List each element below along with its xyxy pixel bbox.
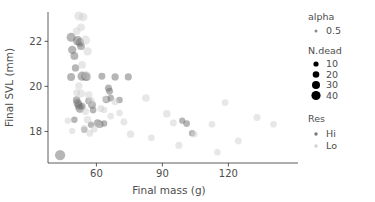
legend: alpha0.5N.dead10203040ResHiLo xyxy=(308,11,342,151)
legend-ndead-40-label: 40 xyxy=(326,90,338,101)
x-tick-label: 90 xyxy=(156,168,169,179)
data-point xyxy=(127,130,134,137)
data-point xyxy=(95,121,101,127)
data-point xyxy=(79,13,87,21)
data-point xyxy=(91,126,98,133)
data-point xyxy=(55,150,65,160)
legend-ndead-30-label: 30 xyxy=(326,79,338,90)
chart-container: 6090120182022Final mass (g)Final SVL (mm… xyxy=(0,0,375,202)
legend-ndead-40-marker xyxy=(311,91,320,100)
data-point xyxy=(235,138,242,145)
data-point xyxy=(209,121,216,128)
data-point xyxy=(72,64,79,71)
y-tick-label: 22 xyxy=(29,36,42,47)
data-point xyxy=(73,89,80,96)
data-point xyxy=(106,88,113,95)
data-point xyxy=(87,97,95,105)
x-axis-title: Final mass (g) xyxy=(132,184,205,196)
data-point xyxy=(170,119,177,126)
legend-res-lo-label: Lo xyxy=(326,140,337,151)
data-point xyxy=(112,98,119,105)
y-tick-label: 18 xyxy=(29,126,42,137)
legend-ndead-20-marker xyxy=(313,71,320,78)
y-tick-label: 20 xyxy=(29,81,42,92)
data-point xyxy=(179,118,185,124)
y-axis-title: Final SVL (mm) xyxy=(3,48,15,127)
data-point xyxy=(107,113,114,120)
data-point xyxy=(101,107,107,113)
axis-lines xyxy=(48,12,298,163)
legend-ndead-20-label: 20 xyxy=(326,69,338,80)
legend-ndead-10-marker xyxy=(313,61,318,66)
data-point xyxy=(73,27,81,35)
data-point xyxy=(78,61,86,69)
data-point xyxy=(142,94,150,102)
data-point xyxy=(120,119,127,126)
data-point xyxy=(148,134,155,141)
data-point xyxy=(69,128,75,134)
data-point xyxy=(163,110,171,118)
data-point xyxy=(84,47,92,55)
legend-res-hi-marker xyxy=(314,132,317,135)
data-point xyxy=(125,73,132,80)
data-point xyxy=(65,117,71,123)
legend-title-alpha: alpha xyxy=(308,11,334,22)
legend-alpha-0_5-label: 0.5 xyxy=(326,25,341,36)
data-point xyxy=(81,125,88,132)
scatter-plot: 6090120182022Final mass (g)Final SVL (mm… xyxy=(0,0,375,202)
legend-res-hi-label: Hi xyxy=(326,128,336,139)
data-point xyxy=(90,107,97,114)
data-point xyxy=(270,121,277,128)
data-point xyxy=(70,52,78,60)
data-point xyxy=(116,110,122,116)
data-point xyxy=(101,120,107,126)
legend-res-lo-marker xyxy=(314,144,317,147)
data-point xyxy=(191,131,197,137)
data-point xyxy=(102,96,108,102)
legend-alpha-0_5-marker xyxy=(315,30,318,33)
data-point xyxy=(75,82,82,89)
x-tick-label: 120 xyxy=(219,168,238,179)
data-point xyxy=(214,149,220,155)
data-point xyxy=(111,73,118,80)
data-points xyxy=(55,12,277,161)
data-point xyxy=(82,71,91,80)
data-point xyxy=(84,116,92,124)
data-point xyxy=(67,73,75,81)
legend-ndead-30-marker xyxy=(312,81,320,89)
x-tick-label: 60 xyxy=(90,168,103,179)
data-point xyxy=(71,116,77,122)
data-point xyxy=(82,108,89,115)
data-point xyxy=(222,99,229,106)
data-point xyxy=(98,73,105,80)
data-point xyxy=(253,114,260,121)
data-point xyxy=(81,36,90,45)
data-point xyxy=(175,142,182,149)
legend-title-ndead: N.dead xyxy=(308,45,342,56)
legend-title-res: Res xyxy=(308,113,325,124)
legend-ndead-10-label: 10 xyxy=(326,58,338,69)
